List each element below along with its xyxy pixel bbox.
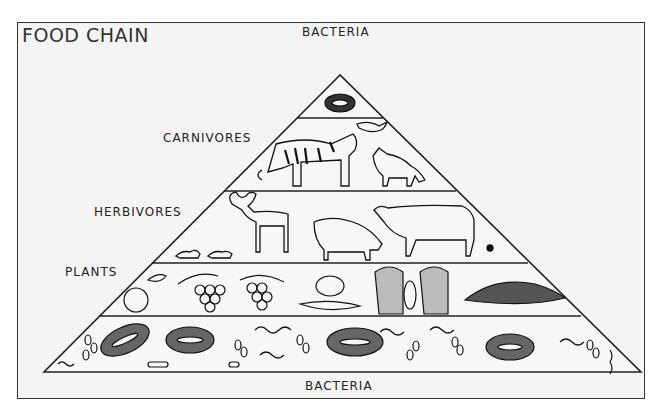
bacteria-colony-icon xyxy=(327,328,383,356)
bacterium-icon xyxy=(325,94,355,112)
pyramid xyxy=(0,0,665,418)
bacteria-colony-icon xyxy=(486,334,534,360)
bacteria-colony-icon xyxy=(166,327,214,353)
insect-icon xyxy=(487,245,493,251)
